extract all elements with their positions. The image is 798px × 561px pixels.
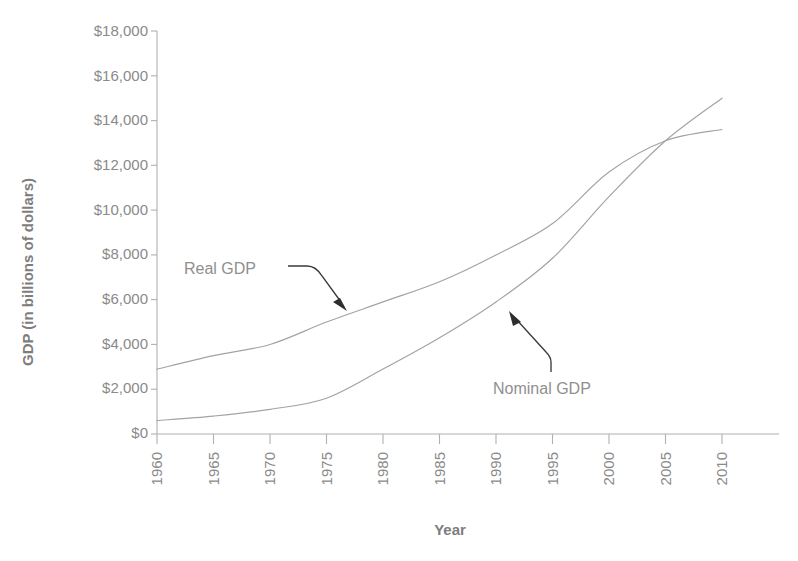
x-axis-title: Year xyxy=(434,521,466,538)
y-tick-label-8000: $8,000 xyxy=(102,245,148,262)
x-tick-label-2010: 2010 xyxy=(713,452,730,485)
x-tick-label-1980: 1980 xyxy=(374,452,391,485)
x-tick-label-1985: 1985 xyxy=(431,452,448,485)
gdp-line-chart: GDP (in billions of dollars) $18,000 $16… xyxy=(0,0,798,561)
x-tick-label-1975: 1975 xyxy=(318,452,335,485)
x-tick-label-1965: 1965 xyxy=(205,452,222,485)
annotation-label-nominal-gdp: Nominal GDP xyxy=(493,380,591,397)
y-tick-label-16000: $16,000 xyxy=(94,67,148,84)
y-tick-label-4000: $4,000 xyxy=(102,335,148,352)
x-tick-label-1970: 1970 xyxy=(261,452,278,485)
x-tick-label-1995: 1995 xyxy=(544,452,561,485)
y-tick-label-14000: $14,000 xyxy=(94,111,148,128)
x-tick-label-2005: 2005 xyxy=(657,452,674,485)
y-tick-label-2000: $2,000 xyxy=(102,379,148,396)
y-axis-title: GDP (in billions of dollars) xyxy=(19,178,36,366)
chart-page: GDP (in billions of dollars) $18,000 $16… xyxy=(0,0,798,561)
x-tick-label-1990: 1990 xyxy=(487,452,504,485)
annotation-arrowhead-nominal-gdp xyxy=(509,311,521,326)
y-tick-label-10000: $10,000 xyxy=(94,201,148,218)
annotation-label-real-gdp: Real GDP xyxy=(184,260,256,277)
y-tick-label-0: $0 xyxy=(131,424,148,441)
annotation-leader-nominal-gdp xyxy=(516,319,551,372)
y-tick-label-6000: $6,000 xyxy=(102,290,148,307)
annotation-leader-real-gdp xyxy=(288,266,341,302)
x-tick-label-2000: 2000 xyxy=(600,452,617,485)
y-tick-label-12000: $12,000 xyxy=(94,156,148,173)
x-tick-label-1960: 1960 xyxy=(148,452,165,485)
y-tick-label-18000: $18,000 xyxy=(94,22,148,39)
annotation-arrowhead-real-gdp xyxy=(333,298,347,311)
series-line-real-gdp xyxy=(157,130,722,370)
